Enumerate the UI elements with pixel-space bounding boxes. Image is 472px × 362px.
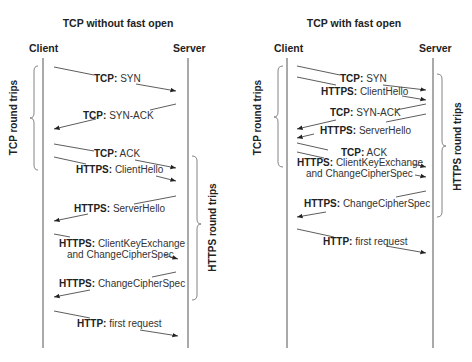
message-label: TCP: SYN [340, 73, 387, 84]
message-label: TCP: SYN-ACK [330, 107, 401, 118]
diagram-without-fast-open: TCP without fast open Client Server [0, 0, 236, 362]
message-label: HTTP: first request [77, 318, 161, 329]
message-label-line2: and ChangeCipherSpec [67, 249, 174, 260]
message-label: HTTPS: ClientKeyExchange [59, 238, 185, 249]
sequence-lines [236, 0, 472, 362]
tcp-round-trips-bracket [30, 66, 38, 170]
https-round-trips-label: HTTPS round trips [207, 183, 218, 273]
message-label: HTTPS: ChangeCipherSpec [59, 278, 185, 289]
message-label: HTTPS: ClientHello [76, 164, 163, 175]
sequence-lines [0, 0, 236, 362]
message-label-line2: and ChangeCipherSpec [306, 168, 413, 179]
tcp-round-trips-bracket [274, 66, 283, 167]
message-label: HTTPS: ClientHello [321, 86, 408, 97]
tcp-round-trips-label: TCP round trips [252, 78, 263, 158]
diagram-with-fast-open: TCP with fast open Client Server [236, 0, 472, 362]
https-round-trips-bracket [192, 156, 201, 300]
message-label: TCP: ACK [94, 148, 140, 159]
message-label: TCP: SYN-ACK [83, 110, 154, 121]
https-round-trips-bracket [437, 74, 446, 217]
message-label: HTTPS: ServerHello [320, 125, 411, 136]
tcp-round-trips-label: TCP round trips [8, 78, 19, 158]
message-label: HTTPS: ClientKeyExchange [297, 157, 423, 168]
message-label: TCP: SYN [94, 73, 141, 84]
message-label: HTTPS: ChangeCipherSpec [304, 198, 430, 209]
https-round-trips-label: HTTPS round trips [452, 102, 463, 192]
message-label: HTTPS: ServerHello [74, 203, 165, 214]
message-label: HTTP: first request [323, 236, 407, 247]
